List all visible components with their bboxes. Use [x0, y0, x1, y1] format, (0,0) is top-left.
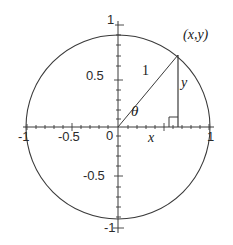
y-tick-label-pos-one: 1 — [107, 13, 114, 26]
adjacent-side-label: x — [148, 131, 154, 145]
hypotenuse-length-label: 1 — [142, 64, 149, 78]
unit-circle-figure: -1 -0.5 0 1 1 0.5 -0.5 -1 x y 1 θ (x,y) — [0, 0, 233, 245]
x-tick-label-neg-one: -1 — [18, 130, 29, 143]
point-coordinates-label: (x,y) — [183, 28, 208, 42]
x-tick-label-neg-half: -0.5 — [58, 130, 80, 143]
x-tick-label-pos-one: 1 — [207, 130, 214, 143]
origin-label: 0 — [106, 129, 113, 142]
y-tick-label-neg-half: -0.5 — [83, 169, 105, 182]
right-angle-marker — [169, 117, 178, 127]
y-tick-label-pos-half: 0.5 — [86, 69, 103, 82]
y-tick-label-neg-one: -1 — [104, 221, 115, 234]
opposite-side-label: y — [181, 76, 187, 90]
angle-theta-label: θ — [131, 104, 138, 119]
